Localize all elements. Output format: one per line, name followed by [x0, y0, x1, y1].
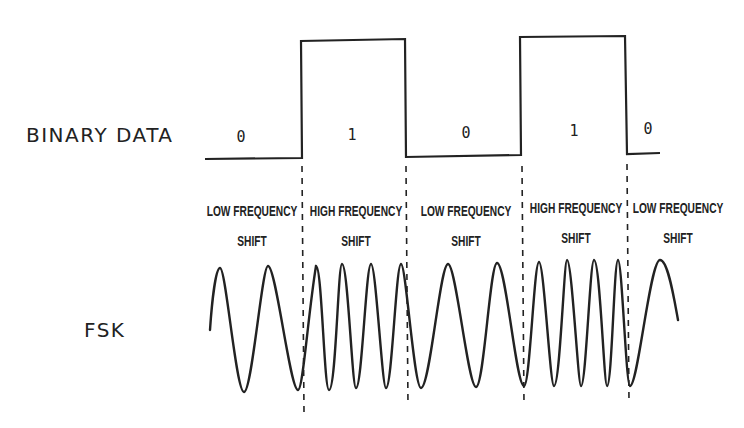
- boundary-line-3: [522, 166, 524, 404]
- fsk-diagram-graphics: [0, 0, 744, 428]
- fsk-waveform: [210, 260, 678, 392]
- binary-data-waveform: [205, 36, 660, 159]
